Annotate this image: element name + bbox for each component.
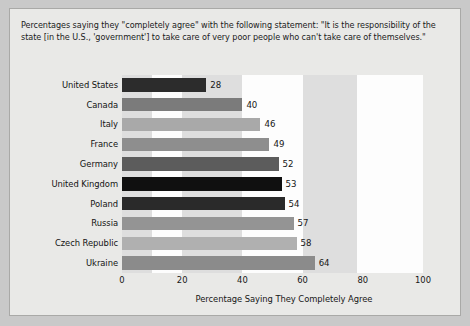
x-tick-80: 80 bbox=[357, 275, 368, 285]
x-tick-0: 0 bbox=[119, 275, 124, 285]
category-label-russia: Russia bbox=[91, 218, 118, 228]
bar-row: Russia57 bbox=[10, 214, 462, 234]
bar-row: France49 bbox=[10, 134, 462, 154]
chart-figure: Percentages saying they "completely agre… bbox=[9, 8, 461, 316]
bar-value-label: 57 bbox=[298, 218, 309, 228]
bar-row: United Kingdom53 bbox=[10, 174, 462, 194]
bar-row: United States28 bbox=[10, 75, 462, 95]
bar-value-label: 64 bbox=[319, 258, 330, 268]
x-tick-40: 40 bbox=[237, 275, 248, 285]
x-tick-60: 60 bbox=[297, 275, 308, 285]
bar-row: Ukraine64 bbox=[10, 253, 462, 273]
bar-czech-republic bbox=[122, 237, 297, 250]
category-label-italy: Italy bbox=[100, 119, 118, 129]
bar-rows: United States28Canada40Italy46France49Ge… bbox=[10, 75, 462, 273]
category-label-canada: Canada bbox=[86, 100, 118, 110]
bar-row: Poland54 bbox=[10, 194, 462, 214]
bar-united-kingdom bbox=[122, 177, 282, 190]
bar-value-label: 46 bbox=[264, 119, 275, 129]
chart-caption: Percentages saying they "completely agre… bbox=[21, 19, 449, 44]
bar-value-label: 54 bbox=[289, 199, 300, 209]
bar-row: Italy46 bbox=[10, 115, 462, 135]
x-axis-title: Percentage Saying They Completely Agree bbox=[10, 294, 462, 304]
caption-line-2: state [in the U.S., 'government'] to tak… bbox=[21, 31, 449, 43]
category-label-ukraine: Ukraine bbox=[86, 258, 118, 268]
bar-poland bbox=[122, 197, 285, 210]
bar-russia bbox=[122, 217, 294, 230]
bar-value-label: 49 bbox=[273, 139, 284, 149]
bar-france bbox=[122, 138, 269, 151]
bar-value-label: 40 bbox=[246, 100, 257, 110]
bar-row: Germany52 bbox=[10, 154, 462, 174]
category-label-united-kingdom: United Kingdom bbox=[51, 179, 118, 189]
bar-row: Canada40 bbox=[10, 95, 462, 115]
bar-row: Czech Republic58 bbox=[10, 233, 462, 253]
bar-value-label: 58 bbox=[301, 238, 312, 248]
category-label-united-states: United States bbox=[62, 80, 118, 90]
bar-germany bbox=[122, 157, 279, 170]
category-label-czech-republic: Czech Republic bbox=[55, 238, 118, 248]
bar-value-label: 53 bbox=[286, 179, 297, 189]
category-label-poland: Poland bbox=[90, 199, 118, 209]
x-axis-title-text: Percentage Saying They Completely Agree bbox=[196, 294, 373, 304]
x-tick-100: 100 bbox=[415, 275, 431, 285]
bar-value-label: 28 bbox=[210, 80, 221, 90]
category-label-germany: Germany bbox=[80, 159, 118, 169]
bar-ukraine bbox=[122, 256, 315, 269]
caption-line-1: Percentages saying they "completely agre… bbox=[21, 19, 449, 31]
bar-canada bbox=[122, 98, 242, 111]
x-axis-ticks: 020406080100 bbox=[10, 275, 462, 291]
bar-italy bbox=[122, 118, 260, 131]
x-tick-20: 20 bbox=[177, 275, 188, 285]
category-label-france: France bbox=[90, 139, 118, 149]
bar-united-states bbox=[122, 78, 206, 91]
bar-value-label: 52 bbox=[283, 159, 294, 169]
